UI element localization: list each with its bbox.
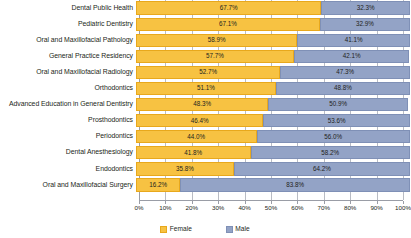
chart-plot-area: Dental Public Health67.7%32.3%Pediatric … bbox=[0, 0, 410, 212]
category-label-oral-and-maxillofacial-surgery: Oral and Maxillofacial Surgery bbox=[0, 182, 136, 189]
x-tick-label-50: 50% bbox=[265, 205, 277, 211]
bar-value-label: 44.0% bbox=[187, 134, 205, 140]
bar-track: 51.1%48.8% bbox=[136, 82, 410, 95]
chart-row-oral-and-maxillofacial-radiology: Oral and Maxillofacial Radiology52.7%47.… bbox=[0, 64, 410, 80]
bar-segment-male-prosthodontics: 53.6% bbox=[263, 114, 410, 127]
x-tick-label-80: 80% bbox=[344, 205, 356, 211]
bar-segment-female-advanced-education-in-general-dentistry: 48.3% bbox=[136, 98, 268, 111]
bar-value-label: 46.4% bbox=[191, 118, 209, 124]
bar-segment-male-oral-and-maxillofacial-radiology: 47.3% bbox=[280, 66, 410, 79]
bar-value-label: 32.9% bbox=[356, 21, 374, 27]
x-tick-label-20: 20% bbox=[186, 205, 198, 211]
x-tick-label-40: 40% bbox=[238, 205, 250, 211]
chart-row-advanced-education-in-general-dentistry: Advanced Education in General Dentistry4… bbox=[0, 97, 410, 113]
bar-segment-female-dental-public-health: 67.7% bbox=[136, 1, 321, 14]
bar-value-label: 56.0% bbox=[324, 134, 342, 140]
x-axis-tick-labels: 0%10%20%30%40%50%60%70%80%90%100% bbox=[139, 205, 403, 216]
chart-row-pediatric-dentistry: Pediatric Dentistry67.1%32.9% bbox=[0, 16, 410, 32]
legend-item-female[interactable]: Female bbox=[160, 226, 192, 233]
bar-value-label: 83.8% bbox=[286, 182, 304, 188]
bar-value-label: 48.8% bbox=[334, 85, 352, 91]
bar-segment-male-dental-anesthesiology: 58.2% bbox=[251, 146, 410, 159]
bar-value-label: 42.1% bbox=[343, 53, 361, 59]
category-label-oral-and-maxillofacial-radiology: Oral and Maxillofacial Radiology bbox=[0, 69, 136, 76]
bar-segment-male-orthodontics: 48.8% bbox=[276, 82, 410, 95]
bar-value-label: 50.9% bbox=[329, 101, 347, 107]
bar-track: 48.3%50.9% bbox=[136, 98, 410, 111]
bar-segment-male-general-practice-residency: 42.1% bbox=[294, 50, 409, 63]
x-tick-label-10: 10% bbox=[159, 205, 171, 211]
chart-row-oral-and-maxillofacial-pathology: Oral and Maxillofacial Pathology58.9%41.… bbox=[0, 32, 410, 48]
chart-row-dental-public-health: Dental Public Health67.7%32.3% bbox=[0, 0, 410, 16]
bar-value-label: 41.1% bbox=[345, 37, 363, 43]
bar-track: 41.8%58.2% bbox=[136, 146, 410, 159]
bar-track: 57.7%42.1% bbox=[136, 50, 410, 63]
chart-row-endodontics: Endodontics35.8%64.2% bbox=[0, 161, 410, 177]
bar-segment-female-oral-and-maxillofacial-radiology: 52.7% bbox=[136, 66, 280, 79]
legend-label: Female bbox=[170, 226, 192, 233]
bar-segment-male-endodontics: 64.2% bbox=[234, 162, 410, 175]
bar-value-label: 52.7% bbox=[199, 69, 217, 75]
bar-value-label: 32.3% bbox=[357, 5, 375, 11]
bar-segment-female-oral-and-maxillofacial-surgery: 16.2% bbox=[136, 178, 180, 191]
legend-item-male[interactable]: Male bbox=[226, 226, 250, 233]
bar-value-label: 35.8% bbox=[176, 166, 194, 172]
x-tick-label-100: 100% bbox=[395, 205, 411, 211]
category-label-advanced-education-in-general-dentistry: Advanced Education in General Dentistry bbox=[0, 101, 136, 108]
male-swatch-icon bbox=[226, 226, 233, 233]
chart-legend: FemaleMale bbox=[0, 222, 410, 236]
bar-segment-female-pediatric-dentistry: 67.1% bbox=[136, 18, 320, 31]
bar-segment-male-pediatric-dentistry: 32.9% bbox=[320, 18, 410, 31]
category-label-dental-anesthesiology: Dental Anesthesiology bbox=[0, 149, 136, 156]
bar-value-label: 64.2% bbox=[313, 166, 331, 172]
legend-label: Male bbox=[235, 226, 249, 233]
category-label-orthodontics: Orthodontics bbox=[0, 85, 136, 92]
category-label-pediatric-dentistry: Pediatric Dentistry bbox=[0, 21, 136, 28]
bar-segment-female-prosthodontics: 46.4% bbox=[136, 114, 263, 127]
bar-segment-male-advanced-education-in-general-dentistry: 50.9% bbox=[268, 98, 407, 111]
bar-value-label: 67.1% bbox=[219, 21, 237, 27]
bar-value-label: 53.6% bbox=[328, 118, 346, 124]
bar-track: 46.4%53.6% bbox=[136, 114, 410, 127]
category-label-periodontics: Periodontics bbox=[0, 133, 136, 140]
chart-row-orthodontics: Orthodontics51.1%48.8% bbox=[0, 80, 410, 96]
bar-track: 52.7%47.3% bbox=[136, 66, 410, 79]
bar-value-label: 47.3% bbox=[336, 69, 354, 75]
bar-segment-male-dental-public-health: 32.3% bbox=[321, 1, 410, 14]
bar-value-label: 58.9% bbox=[208, 37, 226, 43]
bar-track: 67.7%32.3% bbox=[136, 1, 410, 14]
bar-track: 67.1%32.9% bbox=[136, 18, 410, 31]
category-label-endodontics: Endodontics bbox=[0, 166, 136, 173]
bar-segment-female-dental-anesthesiology: 41.8% bbox=[136, 146, 251, 159]
bar-value-label: 51.1% bbox=[197, 85, 215, 91]
bar-segment-male-periodontics: 56.0% bbox=[257, 130, 410, 143]
bar-track: 44.0%56.0% bbox=[136, 130, 410, 143]
category-label-general-practice-residency: General Practice Residency bbox=[0, 53, 136, 60]
bar-segment-female-orthodontics: 51.1% bbox=[136, 82, 276, 95]
x-tick-label-90: 90% bbox=[370, 205, 382, 211]
category-label-dental-public-health: Dental Public Health bbox=[0, 5, 136, 12]
bar-segment-male-oral-and-maxillofacial-pathology: 41.1% bbox=[297, 34, 410, 47]
x-tick-label-60: 60% bbox=[291, 205, 303, 211]
bar-value-label: 41.8% bbox=[184, 150, 202, 156]
bar-value-label: 16.2% bbox=[149, 182, 167, 188]
bar-value-label: 57.7% bbox=[206, 53, 224, 59]
female-swatch-icon bbox=[160, 226, 167, 233]
x-tick-label-0: 0% bbox=[135, 205, 144, 211]
x-tick-label-30: 30% bbox=[212, 205, 224, 211]
bar-track: 16.2%83.8% bbox=[136, 178, 410, 191]
bar-segment-female-endodontics: 35.8% bbox=[136, 162, 234, 175]
bar-segment-female-periodontics: 44.0% bbox=[136, 130, 257, 143]
bar-track: 35.8%64.2% bbox=[136, 162, 410, 175]
chart-row-general-practice-residency: General Practice Residency57.7%42.1% bbox=[0, 48, 410, 64]
bar-track: 58.9%41.1% bbox=[136, 34, 410, 47]
category-label-oral-and-maxillofacial-pathology: Oral and Maxillofacial Pathology bbox=[0, 37, 136, 44]
bar-segment-male-oral-and-maxillofacial-surgery: 83.8% bbox=[180, 178, 410, 191]
chart-row-periodontics: Periodontics44.0%56.0% bbox=[0, 129, 410, 145]
bar-segment-female-general-practice-residency: 57.7% bbox=[136, 50, 294, 63]
bar-segment-female-oral-and-maxillofacial-pathology: 58.9% bbox=[136, 34, 297, 47]
x-tick-label-70: 70% bbox=[318, 205, 330, 211]
chart-row-oral-and-maxillofacial-surgery: Oral and Maxillofacial Surgery16.2%83.8% bbox=[0, 177, 410, 193]
bar-value-label: 67.7% bbox=[220, 5, 238, 11]
